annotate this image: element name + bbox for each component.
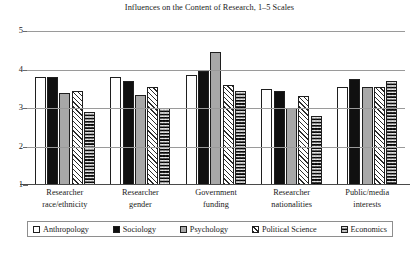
bar[interactable] [362,87,373,185]
legend-swatch-icon [252,226,259,233]
bar[interactable] [47,77,58,185]
y-axis-tick-label: 2 [5,142,23,151]
bar[interactable] [235,91,246,185]
legend-item[interactable]: Economics [341,225,387,234]
x-axis-category-label: Public/mediainterests [329,187,405,210]
bar[interactable] [198,71,209,185]
y-axis-tick-label: 5 [5,26,23,35]
category-label-line: gender [103,199,179,211]
bar[interactable] [374,87,385,185]
legend-swatch-icon [33,226,40,233]
bar[interactable] [110,77,121,185]
legend-item[interactable]: Psychology [180,225,228,234]
x-axis-category-label: Researcherrace/ethnicity [27,187,103,210]
bar[interactable] [261,89,272,185]
category-label-line: Public/media [329,187,405,199]
bar[interactable] [147,87,158,185]
legend-swatch-icon [113,226,120,233]
legend-label: Anthropology [43,225,89,234]
category-label-line: funding [178,199,254,211]
chart-legend: AnthropologySociologyPsychologyPolitical… [27,221,393,237]
chart-title: Influences on the Content of Research, 1… [0,3,419,12]
chart-container: Influences on the Content of Research, 1… [0,0,419,253]
bar[interactable] [274,91,285,185]
legend-label: Political Science [262,225,317,234]
bar[interactable] [186,75,197,185]
bar[interactable] [59,93,70,185]
legend-item[interactable]: Political Science [252,225,317,234]
bar[interactable] [298,96,309,185]
bar[interactable] [123,81,134,185]
plot-area [27,31,405,185]
x-axis-category-labels: Researcherrace/ethnicityResearchergender… [27,187,405,217]
bar[interactable] [210,52,221,185]
legend-label: Economics [351,225,387,234]
category-label-line: Researcher [27,187,103,199]
legend-item[interactable]: Anthropology [33,225,89,234]
category-label-line: race/ethnicity [27,199,103,211]
category-label-line: nationalities [254,199,330,211]
bar[interactable] [72,91,83,185]
legend-swatch-icon [180,226,187,233]
gridline [27,70,405,71]
category-label-line: Researcher [103,187,179,199]
y-axis-tick-label: 3 [5,103,23,112]
bar[interactable] [337,87,348,185]
legend-label: Psychology [190,225,228,234]
legend-label: Sociology [123,225,156,234]
y-axis-tick-label: 4 [5,65,23,74]
bar[interactable] [84,112,95,185]
gridline [27,31,405,32]
y-axis: 12345 [0,31,23,185]
x-axis-category-label: Governmentfunding [178,187,254,210]
bar[interactable] [349,79,360,185]
legend-item[interactable]: Sociology [113,225,156,234]
bar[interactable] [311,116,322,185]
x-axis-category-label: Researchernationalities [254,187,330,210]
category-label-line: Researcher [254,187,330,199]
x-axis-category-label: Researchergender [103,187,179,210]
bar[interactable] [386,81,397,185]
gridline [27,147,405,148]
x-axis-line [20,184,410,185]
y-axis-tick-mark [23,185,28,186]
gridline [27,108,405,109]
category-label-line: interests [329,199,405,211]
legend-swatch-icon [341,226,348,233]
bar[interactable] [35,77,46,185]
category-label-line: Government [178,187,254,199]
bar[interactable] [223,85,234,185]
